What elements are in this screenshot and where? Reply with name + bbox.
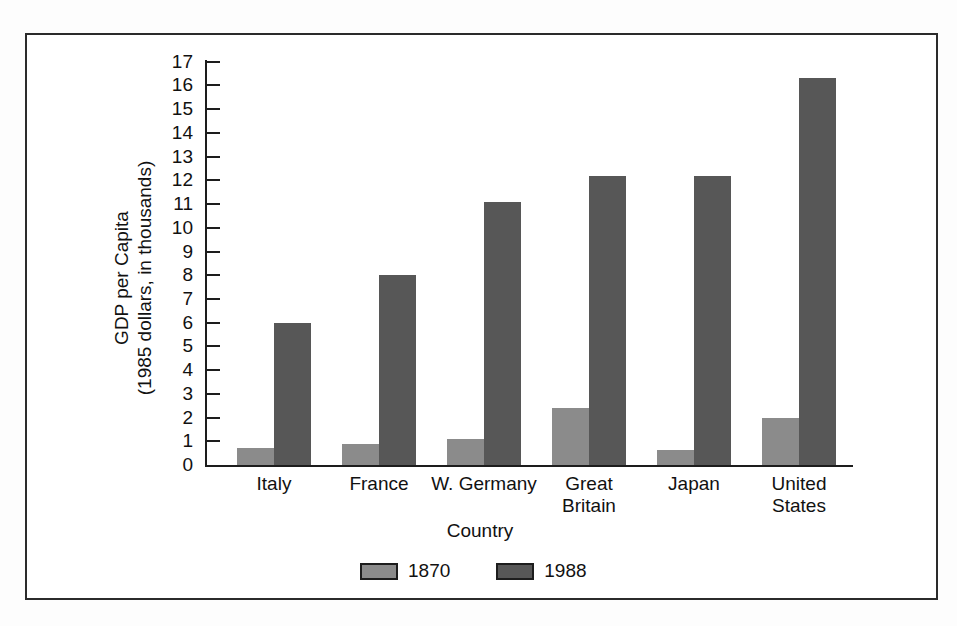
y-axis-tick: [207, 417, 220, 419]
x-axis-title: Country: [405, 520, 555, 542]
x-axis-category-label-line: United: [724, 473, 874, 495]
y-axis-tick: [207, 393, 220, 395]
bar: [274, 323, 311, 465]
x-axis-category-label-line: States: [724, 495, 874, 517]
y-axis-tick-label: 3: [153, 384, 193, 403]
y-axis-title-line1: GDP per Capita: [110, 128, 133, 428]
y-axis-tick-label: 16: [153, 75, 193, 94]
y-axis-title: GDP per Capita (1985 dollars, in thousan…: [110, 128, 156, 428]
chart-page: 01234567891011121314151617 GDP per Capit…: [0, 0, 957, 626]
bar: [762, 418, 799, 465]
y-axis-tick: [207, 84, 220, 86]
bar: [552, 408, 589, 465]
y-axis-tick-label: 0: [153, 455, 193, 474]
bar: [342, 444, 379, 465]
legend-item: 1988: [496, 560, 586, 582]
legend-label: 1988: [544, 560, 586, 582]
legend-item: 1870: [360, 560, 450, 582]
bar: [237, 448, 274, 465]
y-axis-tick-label: 10: [153, 218, 193, 237]
bar: [589, 176, 626, 465]
y-axis-tick: [207, 369, 220, 371]
y-axis-tick: [207, 440, 220, 442]
x-axis-line: [205, 465, 853, 467]
x-axis-category-label: UnitedStates: [724, 473, 874, 517]
y-axis-tick: [207, 227, 220, 229]
y-axis-tick: [207, 156, 220, 158]
y-axis-tick: [207, 132, 220, 134]
y-axis-tick-label: 2: [153, 408, 193, 427]
y-axis-tick-label: 15: [153, 99, 193, 118]
y-axis-tick-label: 14: [153, 123, 193, 142]
y-axis-tick: [207, 345, 220, 347]
x-axis-category-label-line: Britain: [514, 495, 664, 517]
y-axis-tick-label: 4: [153, 360, 193, 379]
y-axis-tick-label: 5: [153, 336, 193, 355]
y-axis-tick: [207, 203, 220, 205]
chart-legend: 18701988: [360, 560, 587, 582]
y-axis-tick-label: 1: [153, 431, 193, 450]
y-axis-tick: [207, 322, 220, 324]
bar: [799, 78, 836, 465]
y-axis-tick: [207, 251, 220, 253]
legend-label: 1870: [408, 560, 450, 582]
legend-swatch: [360, 563, 398, 580]
y-axis-tick: [207, 274, 220, 276]
y-axis-tick-label: 13: [153, 147, 193, 166]
plot-area: 01234567891011121314151617 GDP per Capit…: [0, 0, 957, 626]
bar: [694, 176, 731, 465]
y-axis-title-line2: (1985 dollars, in thousands): [133, 128, 156, 428]
y-axis-tick: [207, 179, 220, 181]
bar: [657, 450, 694, 465]
bar: [379, 275, 416, 465]
y-axis-tick: [207, 61, 220, 63]
y-axis-tick-label: 12: [153, 170, 193, 189]
y-axis-tick: [207, 298, 220, 300]
legend-swatch: [496, 563, 534, 580]
bar: [447, 439, 484, 465]
y-axis-tick-label: 8: [153, 265, 193, 284]
y-axis-tick-label: 11: [153, 194, 193, 213]
bar: [484, 202, 521, 465]
y-axis-tick-label: 6: [153, 313, 193, 332]
y-axis-tick-label: 7: [153, 289, 193, 308]
y-axis-tick-label: 17: [153, 52, 193, 71]
y-axis-tick: [207, 108, 220, 110]
y-axis-line: [205, 60, 207, 467]
y-axis-tick-label: 9: [153, 242, 193, 261]
